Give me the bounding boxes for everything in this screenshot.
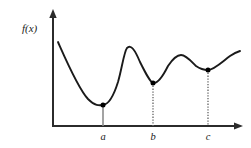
x-tick-label-c: c <box>206 131 211 142</box>
point-marker-b <box>151 81 156 86</box>
point-marker-a <box>101 103 106 108</box>
x-tick-label-b: b <box>150 131 155 142</box>
function-graph-figure: f(x) a b c <box>0 0 251 148</box>
y-axis-label: f(x) <box>22 22 38 35</box>
x-tick-label-a: a <box>100 131 105 142</box>
graph-canvas: f(x) a b c <box>0 0 251 148</box>
point-marker-c <box>206 68 211 73</box>
